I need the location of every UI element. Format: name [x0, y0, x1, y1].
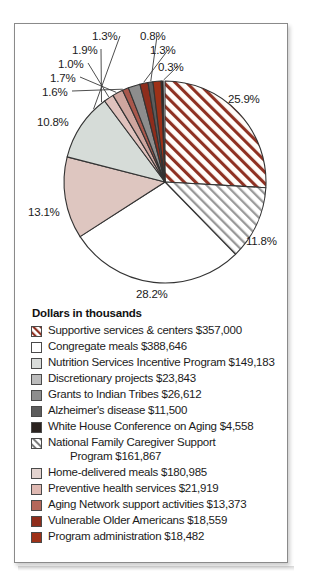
legend-item-label-continued: Program $161,867: [48, 450, 216, 464]
legend-item[interactable]: Grants to Indian Tribes $26,612: [31, 388, 283, 402]
legend-swatch-icon: [31, 468, 42, 479]
legend-swatch-icon: [31, 422, 42, 433]
legend-swatch-icon: [31, 438, 42, 449]
pie-percent-label: 28.2%: [136, 288, 168, 300]
legend-item-label: Vulnerable Older Americans $18,559: [48, 514, 227, 528]
legend-item-label: Program administration $18,482: [48, 530, 204, 544]
legend-swatch-icon: [31, 406, 42, 417]
leader-line: [101, 49, 102, 102]
pie-percent-label: 1.3%: [150, 44, 175, 56]
legend-item[interactable]: National Family Caregiver SupportProgram…: [31, 436, 283, 463]
pie-percent-label: 13.1%: [28, 206, 60, 218]
pie-percent-label: 1.7%: [50, 72, 75, 84]
legend-item-label: Aging Network support activities $13,373: [48, 498, 246, 512]
legend-item-label: Grants to Indian Tribes $26,612: [48, 388, 201, 402]
leader-line: [88, 63, 109, 97]
legend-swatch-icon: [31, 342, 42, 353]
pie-percent-label: 25.9%: [228, 93, 260, 105]
pie-percent-label: 1.0%: [58, 58, 83, 70]
legend-swatch-icon: [31, 326, 42, 337]
legend-swatch-icon: [31, 516, 42, 527]
frame-shadow: [18, 566, 294, 571]
legend-item-label: Alzheimer's disease $11,500: [48, 404, 187, 418]
leader-line: [72, 89, 123, 91]
legend-item-label: National Family Caregiver SupportProgram…: [48, 436, 216, 463]
pie-percent-label: 0.8%: [140, 30, 165, 42]
legend-swatch-icon: [31, 500, 42, 511]
legend-item[interactable]: Congregate meals $388,646: [31, 340, 283, 354]
legend-item-label: Home-delivered meals $180,985: [48, 466, 207, 480]
legend-item[interactable]: Preventive health services $21,919: [31, 482, 283, 496]
pie-chart-area: 25.9%11.8%28.2%13.1%10.8%1.6%1.7%1.0%1.9…: [0, 0, 315, 310]
legend: Dollars in thousands Supportive services…: [31, 307, 283, 546]
legend-item-label: Supportive services & centers $357,000: [48, 324, 242, 338]
pie-percent-label: 1.9%: [72, 44, 97, 56]
pie-percent-label: 11.8%: [246, 235, 277, 247]
legend-item[interactable]: Discretionary projects $23,843: [31, 372, 283, 386]
legend-swatch-icon: [31, 374, 42, 385]
pie-percent-label: 10.8%: [37, 116, 69, 128]
legend-item[interactable]: Supportive services & centers $357,000: [31, 324, 283, 338]
legend-item-label: Discretionary projects $23,843: [48, 372, 196, 386]
legend-item-label: Congregate meals $388,646: [48, 340, 187, 354]
legend-swatch-icon: [31, 484, 42, 495]
legend-title: Dollars in thousands: [32, 307, 283, 319]
legend-item[interactable]: Home-delivered meals $180,985: [31, 466, 283, 480]
legend-item[interactable]: Alzheimer's disease $11,500: [31, 404, 283, 418]
legend-swatch-icon: [31, 532, 42, 543]
pie-percent-label: 0.3%: [158, 61, 183, 73]
legend-item[interactable]: Program administration $18,482: [31, 530, 283, 544]
legend-item[interactable]: Aging Network support activities $13,373: [31, 498, 283, 512]
legend-item[interactable]: White House Conference on Aging $4,558: [31, 420, 283, 434]
legend-item[interactable]: Vulnerable Older Americans $18,559: [31, 514, 283, 528]
legend-item-label: White House Conference on Aging $4,558: [48, 420, 253, 434]
pie-percent-label: 1.6%: [42, 86, 67, 98]
legend-item[interactable]: Nutrition Services Incentive Program $14…: [31, 356, 283, 370]
leader-line: [151, 36, 157, 81]
legend-swatch-icon: [31, 358, 42, 369]
pie-percent-label: 1.3%: [92, 30, 117, 42]
pie-slices: [64, 81, 266, 283]
legend-items: Supportive services & centers $357,000Co…: [31, 324, 283, 543]
legend-item-label: Preventive health services $21,919: [48, 482, 219, 496]
legend-item-label: Nutrition Services Incentive Program $14…: [48, 356, 275, 370]
legend-swatch-icon: [31, 390, 42, 401]
